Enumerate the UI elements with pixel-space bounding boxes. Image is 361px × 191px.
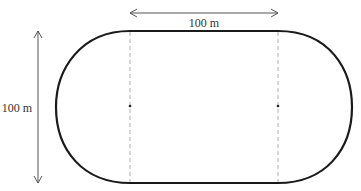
height-arrow: [34, 31, 42, 183]
width-label: 100 m: [189, 16, 220, 30]
right-center-dot: [277, 105, 280, 108]
height-label: 100 m: [2, 101, 33, 115]
track-diagram: 100 m 100 m: [0, 0, 361, 191]
track-outline: [56, 31, 352, 183]
left-center-dot: [129, 105, 132, 108]
